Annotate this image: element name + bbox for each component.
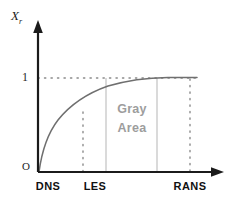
y-axis-subscript: r (19, 17, 22, 26)
x-tick-label-rans: RANS (174, 180, 207, 192)
gray-area-label: Gray Area (106, 100, 158, 138)
x-tick-label-dns: DNS (36, 180, 60, 192)
gray-area-label-line1: Gray (106, 100, 158, 119)
y-axis (33, 20, 43, 172)
figure-container: Xr 1 O DNS LES RANS Gray Area (0, 0, 236, 204)
x-tick-label-les: LES (84, 180, 107, 192)
origin-label: O (22, 160, 30, 172)
y-axis-symbol: X (11, 8, 19, 23)
y-axis-label: Xr (11, 8, 22, 26)
gray-area-label-line2: Area (106, 119, 158, 138)
y-tick-label-one: 1 (22, 70, 28, 85)
